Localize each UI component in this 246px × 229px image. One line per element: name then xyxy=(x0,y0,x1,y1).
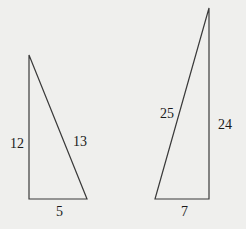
label-hypotenuse: 25 xyxy=(160,106,174,121)
label-base: 7 xyxy=(181,204,188,219)
label-base: 5 xyxy=(56,204,63,219)
label-vertical-leg: 12 xyxy=(10,136,24,151)
triangle-outline xyxy=(155,8,209,199)
diagram-canvas: 12 13 5 25 24 7 xyxy=(0,0,246,229)
triangle-outline xyxy=(29,55,87,199)
label-vertical-leg: 24 xyxy=(218,117,232,132)
triangle-7-24-25: 25 24 7 xyxy=(155,8,232,219)
triangle-5-12-13: 12 13 5 xyxy=(10,55,87,219)
label-hypotenuse: 13 xyxy=(73,134,87,149)
